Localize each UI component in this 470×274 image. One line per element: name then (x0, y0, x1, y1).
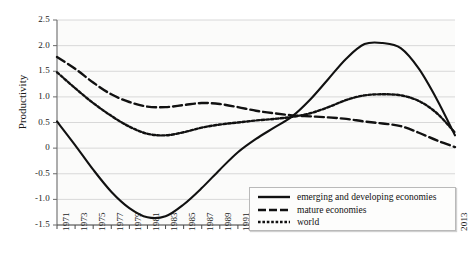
legend-label-world: world (297, 217, 319, 227)
y-axis-title: Productivity (16, 42, 28, 162)
legend-swatch-dashed (257, 205, 291, 215)
legend-item-emerging: emerging and developing economies (257, 190, 436, 203)
y-tick-label: -1.5 (16, 219, 50, 229)
x-tick-label: 1989 (223, 212, 233, 231)
y-tick-label: 2.5 (16, 14, 50, 24)
x-tick-label: 1977 (115, 212, 125, 231)
x-tick-label: 1987 (205, 212, 215, 231)
x-tick-label: 1981 (151, 212, 161, 231)
y-tick-label: -0.5 (16, 168, 50, 178)
legend-label-mature: mature economies (297, 205, 366, 215)
x-tick-label: 2013 (459, 212, 469, 231)
chart-legend: emerging and developing economies mature… (249, 187, 456, 231)
legend-item-world: world (257, 215, 319, 228)
chart-canvas (0, 0, 470, 274)
x-tick-label: 1985 (187, 212, 197, 231)
x-tick-label: 1979 (133, 212, 143, 231)
productivity-line-chart: 2.52.01.51.00.50-0.5-1.0-1.5 19711973197… (0, 0, 470, 274)
legend-label-emerging: emerging and developing economies (297, 192, 436, 202)
x-tick-label: 1975 (97, 212, 107, 231)
x-tick-label: 1971 (61, 212, 71, 231)
legend-swatch-solid (257, 192, 291, 202)
y-tick-label: -1.0 (16, 193, 50, 203)
x-tick-label: 1973 (79, 212, 89, 231)
x-tick-label: 1983 (169, 212, 179, 231)
series-line-dashed (57, 57, 455, 147)
legend-swatch-dotted (257, 217, 291, 227)
